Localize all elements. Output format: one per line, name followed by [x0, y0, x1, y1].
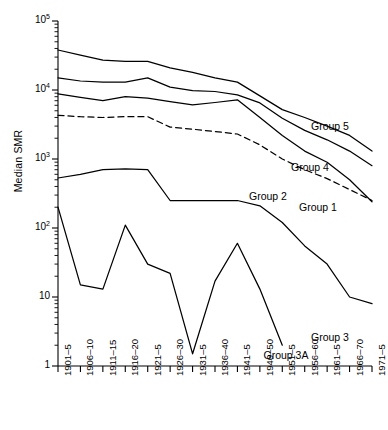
- y-tick-label: 102: [14, 221, 50, 232]
- x-tick-label: 1941–5: [241, 344, 252, 376]
- y-tick-label: 103: [14, 152, 50, 163]
- series-label-group-4: Group 4: [291, 161, 329, 173]
- series-label-group-3: Group 3: [311, 331, 349, 343]
- x-tick-label: 1921–5: [152, 344, 163, 376]
- x-tick-label: 1906–10: [84, 339, 95, 376]
- x-tick-label: 1971–5: [376, 344, 387, 376]
- series-line-group-3a: [58, 207, 282, 354]
- x-tick-label: 1961–5: [331, 344, 342, 376]
- x-tick-label: 1926–30: [174, 339, 185, 376]
- x-tick-label: 1911–15: [107, 340, 118, 376]
- x-tick-label: 1936–40: [219, 339, 230, 376]
- series-label-group-5: Group 5: [311, 120, 349, 132]
- plot-area: [0, 0, 388, 430]
- x-tick-label: 1901–5: [62, 344, 73, 376]
- x-tick-label: 1931–5: [197, 344, 208, 376]
- median-smr-chart: Median SMR 1101021031041051901–51906–101…: [0, 0, 388, 430]
- series-label-group-1: Group 1: [299, 201, 337, 213]
- x-tick-label: 1966–70: [354, 339, 365, 376]
- y-tick-label: 105: [14, 14, 50, 25]
- series-label-group-3a: Group 3A: [264, 349, 309, 361]
- y-tick-label: 10: [14, 290, 50, 301]
- y-tick-label: 1: [14, 359, 50, 370]
- x-tick-label: 1956–60: [309, 339, 320, 376]
- series-label-group-2: Group 2: [249, 190, 287, 202]
- x-tick-label: 1916–20: [129, 339, 140, 376]
- series-line-group-1: [58, 94, 372, 202]
- y-tick-label: 104: [14, 83, 50, 94]
